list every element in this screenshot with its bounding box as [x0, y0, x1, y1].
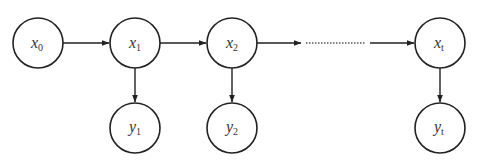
node-x1: x1 [110, 18, 160, 68]
node-subscript: 0 [38, 42, 43, 53]
node-var: x [30, 34, 38, 51]
node-xt: xt [415, 18, 465, 68]
node-var: x [128, 34, 136, 51]
node-subscript: 1 [136, 126, 141, 137]
node-subscript: t [441, 126, 444, 137]
node-subscript: 2 [233, 42, 238, 53]
hmm-diagram: x0 x1 x2 xt y1 y2 yt [0, 0, 479, 167]
node-subscript: 1 [136, 42, 141, 53]
node-subscript: 2 [233, 126, 238, 137]
node-y2: y2 [207, 103, 257, 153]
node-subscript: t [441, 42, 444, 53]
node-y1: y1 [110, 103, 160, 153]
node-var: x [225, 34, 233, 51]
node-x0: x0 [13, 18, 63, 68]
node-var: x [433, 34, 441, 51]
node-yt: yt [415, 103, 465, 153]
node-x2: x2 [207, 18, 257, 68]
